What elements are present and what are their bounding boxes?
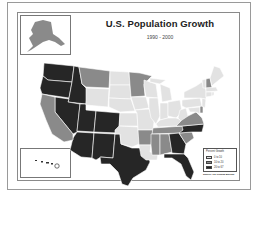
state-nj bbox=[202, 98, 206, 108]
legend-swatch-low bbox=[206, 156, 212, 159]
legend: Percent Growth 0 to 10 10 to 20 20 to 67 bbox=[203, 148, 237, 172]
legend-item-medium: 10 to 20 bbox=[206, 160, 223, 164]
state-de bbox=[200, 106, 203, 113]
state-ks bbox=[119, 113, 138, 126]
legend-item-high: 20 to 67 bbox=[206, 165, 223, 169]
legend-label-medium: 10 to 20 bbox=[214, 161, 223, 164]
legend-title: Percent Growth bbox=[206, 150, 224, 153]
state-pa bbox=[182, 98, 202, 108]
state-ut bbox=[77, 104, 96, 132]
state-ma bbox=[206, 87, 218, 92]
state-az bbox=[70, 132, 94, 158]
state-ri bbox=[212, 92, 214, 96]
state-sd bbox=[109, 85, 131, 99]
state-ne bbox=[109, 98, 135, 112]
legend-label-low: 0 to 10 bbox=[214, 156, 222, 159]
state-ms bbox=[151, 134, 160, 155]
legend-swatch-high bbox=[206, 166, 212, 169]
state-nd bbox=[110, 71, 130, 85]
state-wy bbox=[86, 88, 109, 107]
state-mt bbox=[79, 67, 110, 88]
state-nm bbox=[92, 133, 115, 160]
state-in bbox=[160, 103, 168, 120]
state-fl bbox=[164, 154, 194, 180]
state-wa bbox=[43, 63, 74, 82]
state-me bbox=[210, 66, 224, 86]
state-vt bbox=[202, 79, 206, 88]
source-note: Source: US Census Bureau bbox=[203, 173, 234, 176]
legend-swatch-medium bbox=[206, 161, 212, 164]
legend-label-high: 20 to 67 bbox=[214, 166, 223, 169]
state-ct bbox=[206, 92, 212, 97]
legend-item-low: 0 to 10 bbox=[206, 155, 222, 159]
